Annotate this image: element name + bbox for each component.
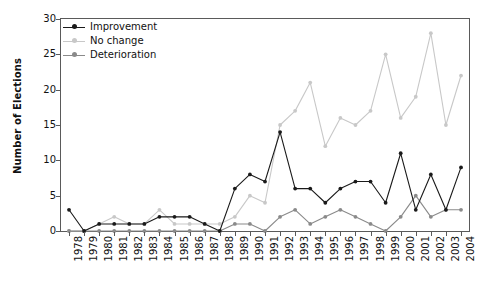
- data-point: [429, 173, 433, 177]
- data-point: [429, 31, 433, 35]
- data-point: [323, 215, 327, 219]
- data-point: [248, 173, 252, 177]
- x-tick-label: 1987: [209, 236, 221, 282]
- data-point: [354, 215, 358, 219]
- x-tick-label: 2003: [450, 236, 462, 282]
- x-tick-label: 1994: [314, 236, 326, 282]
- chart-container: Number of Elections 051015202530 1978197…: [0, 0, 484, 287]
- x-tick-label: 1980: [103, 236, 115, 282]
- data-point: [158, 208, 162, 212]
- data-point: [293, 208, 297, 212]
- data-point: [293, 187, 297, 191]
- y-tick-label: 10: [36, 155, 56, 165]
- x-tick-label: 1993: [299, 236, 311, 282]
- legend-label: Improvement: [90, 21, 157, 33]
- x-tick-label: 1984: [163, 236, 175, 282]
- x-axis-tick-labels: 1978197919801981198219831984198519861987…: [60, 238, 470, 284]
- data-point: [459, 74, 463, 78]
- legend-swatch-icon: [63, 36, 85, 46]
- y-tick-label: 25: [36, 49, 56, 59]
- x-tick-label: 2004: [465, 236, 477, 282]
- data-point: [67, 208, 71, 212]
- data-point: [142, 222, 146, 226]
- data-point: [338, 116, 342, 120]
- legend-swatch-icon: [63, 22, 85, 32]
- x-tick-label: 1983: [148, 236, 160, 282]
- data-point: [233, 215, 237, 219]
- x-tick-label: 1988: [224, 236, 236, 282]
- x-tick-label: 1999: [390, 236, 402, 282]
- data-point: [188, 222, 192, 226]
- data-point: [399, 116, 403, 120]
- data-point: [263, 180, 267, 184]
- y-tick-label: 5: [36, 191, 56, 201]
- x-tick-label: 1997: [359, 236, 371, 282]
- data-point: [263, 201, 267, 205]
- x-tick-label: 2001: [420, 236, 432, 282]
- data-point: [278, 123, 282, 127]
- x-tick-label: 1990: [254, 236, 266, 282]
- series-improvement: [67, 130, 463, 233]
- data-point: [233, 187, 237, 191]
- data-point: [384, 52, 388, 56]
- y-tick-label: 0: [36, 226, 56, 236]
- chart-legend: ImprovementNo changeDeterioration: [63, 20, 193, 62]
- data-point: [278, 130, 282, 134]
- data-point: [158, 215, 162, 219]
- x-tick-label: 1982: [133, 236, 145, 282]
- data-point: [233, 222, 237, 226]
- y-tick-label: 15: [36, 120, 56, 130]
- data-point: [354, 180, 358, 184]
- data-point: [399, 151, 403, 155]
- x-tick-mark: [69, 232, 70, 236]
- legend-item-improvement: Improvement: [63, 20, 193, 34]
- x-tick-label: 1989: [239, 236, 251, 282]
- data-point: [369, 180, 373, 184]
- data-point: [248, 194, 252, 198]
- x-tick-label: 1992: [284, 236, 296, 282]
- y-tick-label: 30: [36, 14, 56, 24]
- data-point: [369, 222, 373, 226]
- x-tick-label: 1979: [88, 236, 100, 282]
- data-point: [444, 208, 448, 212]
- legend-label: Deterioration: [90, 49, 156, 61]
- x-tick-label: 1991: [269, 236, 281, 282]
- y-axis-title: Number of Elections: [8, 0, 26, 232]
- data-point: [308, 81, 312, 85]
- data-point: [173, 222, 177, 226]
- legend-label: No change: [90, 35, 144, 47]
- data-point: [384, 201, 388, 205]
- data-point: [414, 208, 418, 212]
- y-axis-tick-labels: 051015202530: [34, 18, 56, 232]
- data-point: [248, 222, 252, 226]
- x-tick-label: 1995: [329, 236, 341, 282]
- legend-item-deterioration: Deterioration: [63, 48, 193, 62]
- series-deterioration: [67, 194, 463, 233]
- x-tick-label: 1978: [73, 236, 85, 282]
- data-point: [414, 194, 418, 198]
- data-point: [293, 109, 297, 113]
- data-point: [399, 215, 403, 219]
- data-point: [218, 222, 222, 226]
- data-point: [127, 222, 131, 226]
- legend-item-no-change: No change: [63, 34, 193, 48]
- data-point: [112, 215, 116, 219]
- data-point: [112, 222, 116, 226]
- x-tick-label: 1981: [118, 236, 130, 282]
- y-tick-label: 20: [36, 85, 56, 95]
- legend-swatch-icon: [63, 50, 85, 60]
- data-point: [188, 215, 192, 219]
- x-tick-label: 1996: [344, 236, 356, 282]
- data-point: [338, 187, 342, 191]
- x-tick-label: 2002: [435, 236, 447, 282]
- data-point: [323, 201, 327, 205]
- data-point: [338, 208, 342, 212]
- x-tick-label: 1998: [375, 236, 387, 282]
- data-point: [354, 123, 358, 127]
- data-point: [97, 222, 101, 226]
- data-point: [414, 95, 418, 99]
- data-point: [429, 215, 433, 219]
- data-point: [369, 109, 373, 113]
- data-point: [203, 222, 207, 226]
- data-point: [323, 144, 327, 148]
